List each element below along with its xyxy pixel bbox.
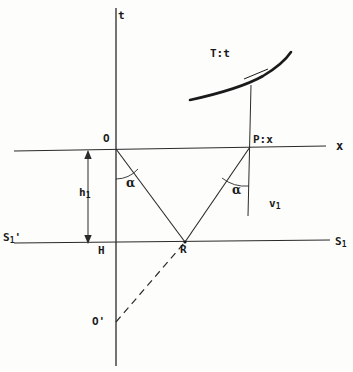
- interface-left-prime: ': [14, 231, 21, 244]
- t-axis-label: t: [118, 10, 125, 21]
- origin-label: O: [103, 133, 110, 144]
- x-axis-label: x: [336, 140, 343, 152]
- travel-time-curve: [190, 52, 291, 100]
- incident-ray: [116, 149, 185, 242]
- image-source-label: O': [92, 316, 105, 327]
- ray-diagram-figure: t T:t O P:x x α α h1 v1 S1' S1 H R O': [0, 0, 353, 372]
- virtual-image-ray-dashed: [116, 242, 185, 322]
- point-p-label: P:x: [253, 134, 273, 145]
- depth-h1-subscript: 1: [86, 191, 91, 200]
- interface-left-label: S1': [3, 232, 21, 245]
- depth-h1-label: h1: [79, 187, 90, 200]
- diagram-canvas: [0, 0, 353, 372]
- reflection-point-r-label: R: [180, 244, 187, 255]
- interface-right-label: S1: [335, 236, 346, 249]
- velocity-v1-subscript: 1: [276, 202, 281, 211]
- velocity-v1-label: v1: [269, 198, 280, 211]
- interface-right-subscript: 1: [342, 240, 347, 249]
- p-vertical-line: [248, 85, 251, 216]
- x-axis-line: [14, 146, 326, 151]
- angle-alpha-at-p-label: α: [232, 184, 241, 196]
- interface-line: [14, 240, 330, 243]
- interface-left-main: S: [3, 231, 10, 244]
- depth-h1-main: h: [79, 186, 86, 199]
- angle-alpha-at-o-label: α: [126, 177, 135, 189]
- travel-time-curve-label: T:t: [210, 48, 230, 59]
- foot-point-h-label: H: [98, 245, 105, 256]
- interface-right-main: S: [335, 235, 342, 248]
- velocity-v1-main: v: [269, 197, 276, 210]
